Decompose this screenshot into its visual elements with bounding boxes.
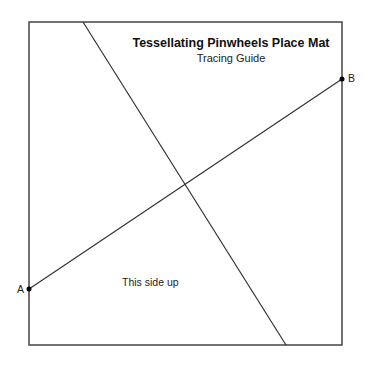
diagram-title: Tessellating Pinwheels Place Mat [116, 36, 346, 50]
orientation-label: This side up [122, 276, 179, 288]
point-b-label: B [348, 72, 355, 84]
point-b-dot [340, 77, 345, 82]
diagram-subtitle: Tracing Guide [116, 52, 346, 64]
point-a-label: A [17, 283, 24, 295]
point-a-dot [27, 287, 32, 292]
diagonal-line [83, 22, 286, 345]
line-ab [29, 79, 342, 289]
